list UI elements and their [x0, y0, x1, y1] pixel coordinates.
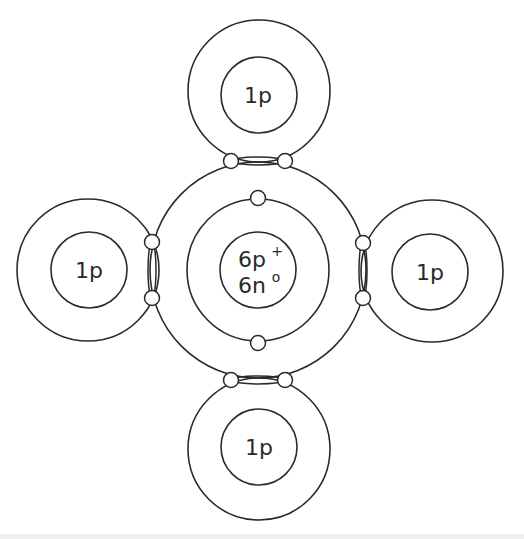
electron-icon [145, 291, 160, 306]
electron-icon [224, 154, 239, 169]
hydrogen-top-label: 1p [244, 83, 272, 108]
hydrogen-bottom-label: 1p [245, 435, 273, 460]
electron-icon [145, 235, 160, 250]
electron-icon [356, 236, 371, 251]
carbon-neutrons-charge: o [272, 269, 281, 285]
carbon-protons-charge: + [271, 243, 283, 259]
electron-icon [251, 336, 266, 351]
bottom-border-strip [0, 534, 524, 539]
electron-icon [278, 373, 293, 388]
electron-icon [278, 154, 293, 169]
electron-icon [251, 191, 266, 206]
hydrogen-left-label: 1p [75, 258, 103, 283]
electron-icon [224, 373, 239, 388]
electron-icon [356, 291, 371, 306]
carbon-neutrons-label: 6n [238, 273, 266, 298]
methane-bohr-diagram: 1p 1p 1p 1p 6p + 6n o [0, 0, 524, 539]
carbon-protons-label: 6p [238, 247, 266, 272]
hydrogen-right-label: 1p [416, 260, 444, 285]
